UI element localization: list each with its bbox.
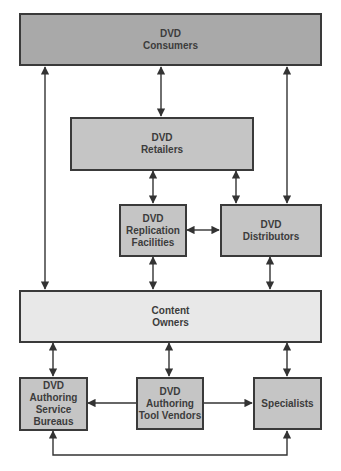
node-label-line: Specialists xyxy=(261,398,313,410)
node-dvd-consumers: DVD Consumers xyxy=(19,13,322,66)
node-dvd-retailers: DVD Retailers xyxy=(70,117,254,171)
node-specialists: Specialists xyxy=(253,377,322,430)
node-dvd-authoring-service-bureaus: DVD Authoring Service Bureaus xyxy=(19,377,88,431)
node-label-line: DVD xyxy=(159,386,180,398)
node-label-line: Retailers xyxy=(141,144,183,156)
node-label-line: Service xyxy=(36,404,72,416)
node-label-line: Owners xyxy=(152,317,189,329)
node-dvd-replication-facilities: DVD Replication Facilities xyxy=(119,204,187,257)
node-label-line: Tool Vendors xyxy=(139,410,202,422)
node-label-line: Facilities xyxy=(132,237,175,249)
node-label-line: Authoring xyxy=(146,398,194,410)
node-content-owners: Content Owners xyxy=(19,290,322,343)
node-label-line: Authoring xyxy=(30,392,78,404)
node-label-line: Content xyxy=(152,305,190,317)
arrow-bureaus-specialists xyxy=(53,431,287,455)
node-label-line: Bureaus xyxy=(33,416,73,428)
node-label-line: DVD xyxy=(160,28,181,40)
node-dvd-distributors: DVD Distributors xyxy=(220,204,322,257)
node-label-line: DVD xyxy=(151,132,172,144)
node-label-line: DVD xyxy=(260,219,281,231)
node-label-line: DVD xyxy=(142,213,163,225)
node-label-line: Distributors xyxy=(243,231,300,243)
node-dvd-authoring-tool-vendors: DVD Authoring Tool Vendors xyxy=(136,377,204,430)
node-label-line: Consumers xyxy=(143,40,198,52)
node-label-line: Replication xyxy=(126,225,180,237)
node-label-line: DVD xyxy=(43,380,64,392)
